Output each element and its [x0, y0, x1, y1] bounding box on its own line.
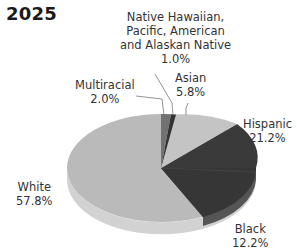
- label-nhpi-line2: Pacific, American: [120, 24, 231, 38]
- label-hispanic-name: Hispanic: [243, 117, 292, 131]
- label-multiracial-name: Multiracial: [75, 78, 135, 92]
- label-black: Black 12.2%: [232, 222, 269, 250]
- label-multiracial-value: 2.0%: [75, 92, 135, 106]
- label-black-value: 12.2%: [232, 236, 269, 250]
- label-nhpi-line3: and Alaskan Native: [120, 38, 231, 52]
- label-white-name: White: [16, 180, 53, 194]
- label-asian: Asian 5.8%: [175, 71, 206, 99]
- label-black-name: Black: [232, 222, 269, 236]
- label-nhpi-value: 1.0%: [120, 52, 231, 66]
- pie-top: [67, 114, 258, 222]
- label-multiracial: Multiracial 2.0%: [75, 78, 135, 106]
- label-hispanic-value: 21.2%: [243, 131, 292, 145]
- label-hispanic: Hispanic 21.2%: [243, 117, 292, 145]
- label-nhpi-line1: Native Hawaiian,: [120, 10, 231, 24]
- label-nhpi: Native Hawaiian, Pacific, American and A…: [120, 10, 231, 66]
- label-asian-value: 5.8%: [175, 85, 206, 99]
- label-asian-name: Asian: [175, 71, 206, 85]
- label-white-value: 57.8%: [16, 194, 53, 208]
- label-white: White 57.8%: [16, 180, 53, 208]
